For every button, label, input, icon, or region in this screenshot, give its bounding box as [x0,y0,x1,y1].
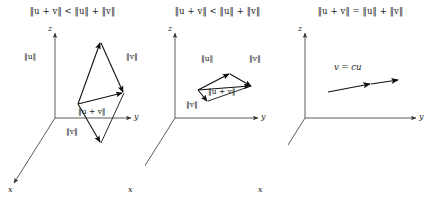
vector-v [230,74,251,86]
vector-u-plus-v [78,93,122,104]
label-norm-v: ‖v‖ [249,54,261,63]
axis-label-x: x [8,185,13,194]
vector-v-parallel [371,80,398,84]
label-norm-v: ‖v‖ [126,52,138,61]
coordinate-axes [0,0,145,205]
axis-label-y: y [134,112,139,121]
label-norm-v-bottom: ‖v‖ [66,127,78,136]
vector-v-translated [198,90,207,101]
triangle-inequality-figure: ‖u + v‖ < ‖u‖ + ‖v‖ [0,0,433,205]
vector-v [101,43,123,92]
label-norm-u: ‖u‖ [24,52,36,61]
label-norm-u: ‖u‖ [201,54,213,63]
coordinate-axes [288,0,433,205]
axis-label-x: x [258,185,263,194]
vector-u [328,84,370,92]
x-axis [288,118,305,183]
axis-label-z: z [298,24,302,33]
x-axis [145,118,175,183]
axis-label-y: y [419,112,424,121]
axis-label-y: y [261,112,266,121]
panel-strict-inequality-general: ‖u + v‖ < ‖u‖ + ‖v‖ [0,0,145,205]
axis-label-x: x [128,185,133,194]
panel-equality-parallel: ‖u + v‖ = ‖u‖ + ‖v‖ v = cu z y x [288,0,433,205]
x-axis [14,118,55,183]
label-norm-u-plus-v: ‖u + v‖ [208,87,236,96]
label-norm-u-plus-v: ‖u + v‖ [78,107,106,116]
axis-label-z: z [168,24,172,33]
axis-label-z: z [48,24,52,33]
coordinate-axes [145,0,290,205]
vector-u [78,43,100,104]
label-norm-v-bottom: ‖v‖ [186,100,198,109]
label-v-equals-cu: v = cu [334,62,362,72]
panel-strict-inequality-flat: ‖u + v‖ < ‖u‖ + ‖v‖ ‖u‖ ‖v‖ ‖u + v‖ [145,0,290,205]
